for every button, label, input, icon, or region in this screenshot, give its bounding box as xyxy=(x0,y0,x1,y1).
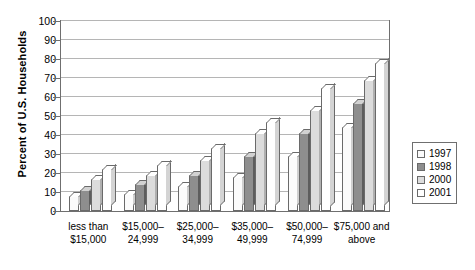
y-axis-tick-mark xyxy=(53,173,60,174)
y-axis-tick-mark xyxy=(53,59,60,60)
bar[interactable] xyxy=(135,184,145,211)
y-axis-tick-label: 80 xyxy=(16,54,56,65)
bar-side-face xyxy=(384,58,389,206)
bar[interactable] xyxy=(321,88,331,212)
bar-group xyxy=(334,21,389,211)
chart-container: Percent of U.S. Households 1009080706050… xyxy=(0,0,475,270)
legend-swatch xyxy=(417,176,425,184)
bar[interactable] xyxy=(91,179,101,211)
y-axis-tick-mark xyxy=(53,154,60,155)
bar[interactable] xyxy=(288,156,298,211)
y-axis-tick-mark xyxy=(53,135,60,136)
bar[interactable] xyxy=(299,133,309,211)
y-axis-tick-mark xyxy=(53,97,60,98)
bar[interactable] xyxy=(102,169,112,211)
bar[interactable] xyxy=(157,165,167,211)
bar[interactable] xyxy=(178,186,188,211)
y-axis-tick-mark xyxy=(53,78,60,79)
bar-group xyxy=(61,21,116,211)
bar[interactable] xyxy=(124,194,134,211)
bar[interactable] xyxy=(211,148,221,211)
legend-item[interactable]: 1998 xyxy=(417,160,451,173)
bar[interactable] xyxy=(353,103,363,211)
legend-label: 1998 xyxy=(429,162,451,172)
legend-item[interactable]: 2001 xyxy=(417,186,451,199)
chart-legend: 1997199820002001 xyxy=(412,142,457,204)
legend-swatch xyxy=(417,189,425,197)
legend-item[interactable]: 2000 xyxy=(417,173,451,186)
bar[interactable] xyxy=(375,63,385,211)
legend-label: 2000 xyxy=(429,175,451,185)
y-axis-tick-label: 10 xyxy=(16,187,56,198)
legend-swatch xyxy=(417,150,425,158)
bar[interactable] xyxy=(189,175,199,211)
bar[interactable] xyxy=(342,127,352,211)
y-axis-tick-label: 70 xyxy=(16,73,56,84)
y-axis-tick-mark xyxy=(53,211,60,212)
bar[interactable] xyxy=(146,175,156,211)
bar-group xyxy=(280,21,335,211)
bar-groups xyxy=(61,21,389,211)
bar-group xyxy=(225,21,280,211)
bar[interactable] xyxy=(233,177,243,211)
legend-item[interactable]: 1997 xyxy=(417,147,451,160)
y-axis-tick-mark xyxy=(53,116,60,117)
y-axis-tick-mark xyxy=(53,21,60,22)
legend-label: 2001 xyxy=(429,188,451,198)
y-axis-tick-mark xyxy=(53,192,60,193)
bar[interactable] xyxy=(255,133,265,211)
bar-group xyxy=(170,21,225,211)
bar[interactable] xyxy=(69,196,79,211)
bar[interactable] xyxy=(244,156,254,211)
legend-label: 1997 xyxy=(429,149,451,159)
y-axis-tick-mark xyxy=(53,40,60,41)
x-axis-tick-label-line1: $75,000 and xyxy=(317,221,407,234)
legend-swatch xyxy=(417,163,425,171)
y-axis-tick-label: 40 xyxy=(16,130,56,141)
bar[interactable] xyxy=(364,80,374,211)
bar[interactable] xyxy=(200,160,210,211)
bar[interactable] xyxy=(80,190,90,211)
y-axis-tick-label: 0 xyxy=(16,206,56,217)
y-axis-tick-label: 50 xyxy=(16,111,56,122)
bar[interactable] xyxy=(310,110,320,211)
y-axis-tick-label: 90 xyxy=(16,35,56,46)
bar[interactable] xyxy=(266,122,276,211)
y-axis-tick-label: 60 xyxy=(16,92,56,103)
bar-group xyxy=(116,21,171,211)
y-axis-tick-label: 30 xyxy=(16,149,56,160)
x-axis-tick-label-line2: above xyxy=(317,234,407,247)
x-axis-tick-label: $75,000 andabove xyxy=(317,221,407,246)
y-axis-tick-label: 20 xyxy=(16,168,56,179)
y-axis-tick-label: 100 xyxy=(16,16,56,27)
